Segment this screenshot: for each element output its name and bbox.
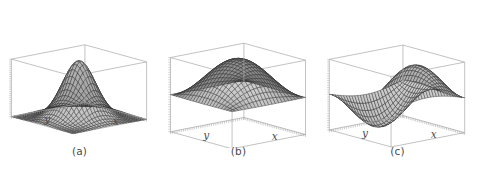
surface-plot-figure: y x (a) y x (b) y x (c)	[0, 0, 477, 171]
wave-ridge-valley-surface	[318, 0, 477, 148]
plot-area-a: y x	[0, 0, 159, 148]
x-axis-label-b: x	[272, 130, 278, 142]
panel-c: y x (c)	[318, 0, 477, 171]
cosine-dome-surface	[159, 0, 318, 148]
x-axis-label-c: x	[431, 128, 437, 140]
panel-a: y x (a)	[0, 0, 159, 171]
x-axis-label-a: x	[113, 115, 119, 127]
y-axis-label-a: y	[44, 113, 50, 125]
y-axis-label-c: y	[362, 127, 368, 139]
panel-b: y x (b)	[159, 0, 318, 171]
gaussian-bell-surface	[0, 0, 159, 148]
plot-area-b: y x	[159, 0, 318, 148]
plot-area-c: y x	[318, 0, 477, 148]
y-axis-label-b: y	[203, 129, 209, 141]
